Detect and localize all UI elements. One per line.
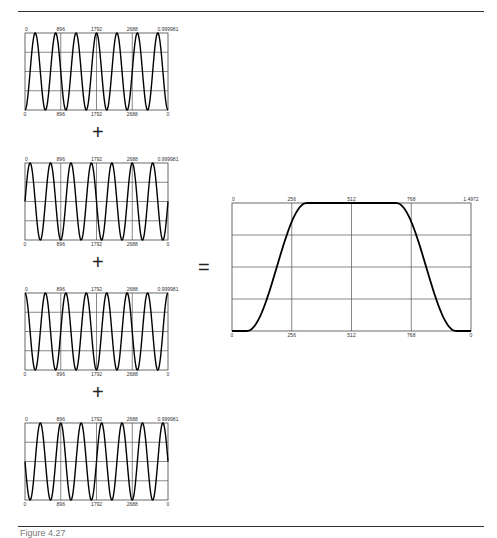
svg-text:896: 896 <box>57 241 66 247</box>
svg-text:512: 512 <box>347 332 356 338</box>
svg-text:0.999981: 0.999981 <box>158 156 179 162</box>
svg-text:896: 896 <box>57 111 66 117</box>
svg-text:2688: 2688 <box>127 111 138 117</box>
top-rule <box>18 11 484 12</box>
svg-text:0: 0 <box>25 26 28 32</box>
svg-text:0: 0 <box>24 111 27 117</box>
svg-text:0: 0 <box>24 241 27 247</box>
svg-text:1792: 1792 <box>91 156 102 162</box>
svg-text:1792: 1792 <box>91 371 102 377</box>
waveform-plot-3: 0896179226880.9999810896179226880 <box>25 293 168 370</box>
plus-sign-2: + <box>92 252 104 272</box>
svg-text:0: 0 <box>231 332 234 338</box>
svg-text:2688: 2688 <box>127 501 138 507</box>
svg-text:1.4972: 1.4972 <box>463 196 479 202</box>
svg-text:0: 0 <box>167 111 170 117</box>
waveform-plot-4: 0896179226880.9999810896179226880 <box>25 423 168 500</box>
svg-text:896: 896 <box>57 501 66 507</box>
svg-text:896: 896 <box>57 286 66 292</box>
equals-sign: = <box>198 257 210 277</box>
svg-text:1792: 1792 <box>91 501 102 507</box>
waveform-plot-2: 0896179226880.9999810896179226880 <box>25 163 168 240</box>
svg-text:768: 768 <box>407 196 416 202</box>
svg-text:256: 256 <box>288 196 297 202</box>
svg-text:0: 0 <box>24 371 27 377</box>
svg-text:768: 768 <box>407 332 416 338</box>
svg-text:0.999981: 0.999981 <box>158 286 179 292</box>
svg-text:1792: 1792 <box>91 286 102 292</box>
svg-text:896: 896 <box>57 26 66 32</box>
svg-text:2688: 2688 <box>127 286 138 292</box>
svg-text:256: 256 <box>288 332 297 338</box>
svg-text:896: 896 <box>57 416 66 422</box>
svg-text:0.999981: 0.999981 <box>158 26 179 32</box>
svg-text:0.999981: 0.999981 <box>158 416 179 422</box>
sum-result-plot: 02565127681.497202565127680 <box>232 203 471 331</box>
svg-text:0: 0 <box>25 156 28 162</box>
plus-sign-1: + <box>92 122 104 142</box>
svg-text:1792: 1792 <box>91 111 102 117</box>
svg-text:2688: 2688 <box>127 156 138 162</box>
bottom-rule <box>18 526 484 527</box>
svg-text:896: 896 <box>57 371 66 377</box>
svg-text:1792: 1792 <box>91 241 102 247</box>
svg-text:1792: 1792 <box>91 26 102 32</box>
figure-caption: Figure 4.27 <box>20 528 66 538</box>
svg-text:0: 0 <box>167 371 170 377</box>
svg-text:896: 896 <box>57 156 66 162</box>
svg-text:2688: 2688 <box>127 371 138 377</box>
svg-text:0: 0 <box>232 196 235 202</box>
svg-text:2688: 2688 <box>127 241 138 247</box>
svg-text:1792: 1792 <box>91 416 102 422</box>
plus-sign-3: + <box>92 382 104 402</box>
svg-text:0: 0 <box>25 416 28 422</box>
svg-text:0: 0 <box>470 332 473 338</box>
svg-text:0: 0 <box>25 286 28 292</box>
svg-text:0: 0 <box>167 241 170 247</box>
svg-text:2688: 2688 <box>127 26 138 32</box>
svg-text:512: 512 <box>347 196 356 202</box>
svg-text:2688: 2688 <box>127 416 138 422</box>
svg-text:0: 0 <box>167 501 170 507</box>
svg-text:0: 0 <box>24 501 27 507</box>
waveform-plot-1: 0896179226880.9999810896179226880 <box>25 33 168 110</box>
